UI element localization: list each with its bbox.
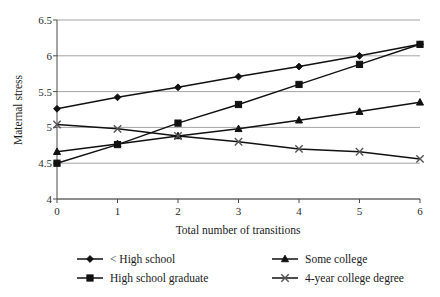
line-chart: 44.555.566.5 0123456 Maternal stress Tot…: [0, 0, 440, 297]
legend-item[interactable]: < High school: [77, 253, 175, 266]
marker-square: [87, 275, 93, 281]
data-series-group: [53, 41, 423, 166]
marker-triangle: [417, 99, 424, 106]
marker-diamond: [114, 94, 121, 101]
y-tick-label: 6: [47, 50, 53, 62]
marker-square: [417, 41, 423, 47]
marker-diamond: [356, 52, 363, 59]
x-tick-label: 4: [296, 205, 302, 217]
marker-diamond: [54, 105, 61, 112]
legend-label: Some college: [305, 253, 367, 266]
legend-item[interactable]: 4-year college degree: [272, 272, 404, 285]
legend-label: High school graduate: [110, 272, 208, 285]
marker-square: [175, 120, 181, 126]
legend-item[interactable]: Some college: [272, 253, 367, 266]
x-axis-tick-labels: 0123456: [54, 205, 423, 217]
plot-axes: [57, 20, 420, 199]
legend-label: < High school: [110, 253, 175, 266]
marker-diamond: [235, 73, 242, 80]
marker-square: [54, 160, 60, 166]
y-axis-title: Maternal stress: [12, 75, 24, 145]
marker-square: [356, 61, 362, 67]
x-tick-label: 1: [115, 205, 121, 217]
marker-diamond: [175, 84, 182, 91]
y-tick-label: 6.5: [38, 14, 52, 26]
chart-legend: < High schoolSome collegeHigh school gra…: [77, 253, 404, 285]
legend-label: 4-year college degree: [305, 272, 404, 285]
data-series: [54, 41, 423, 166]
y-tick-label: 5.5: [38, 86, 52, 98]
gridlines: [57, 20, 420, 199]
marker-square: [235, 101, 241, 107]
marker-diamond: [87, 256, 94, 263]
x-tick-label: 3: [236, 205, 242, 217]
x-tick-label: 6: [417, 205, 423, 217]
x-tick-label: 0: [54, 205, 60, 217]
marker-square: [296, 81, 302, 87]
x-tick-label: 2: [175, 205, 181, 217]
x-tick-label: 5: [357, 205, 363, 217]
x-axis-tickmarks: [57, 199, 420, 203]
y-tick-label: 5: [47, 121, 53, 133]
x-axis-title: Total number of transitions: [176, 224, 301, 236]
chart-figure: 44.555.566.5 0123456 Maternal stress Tot…: [0, 0, 440, 297]
y-tick-label: 4: [47, 193, 53, 205]
y-tick-label: 4.5: [38, 157, 52, 169]
legend-item[interactable]: High school graduate: [77, 272, 208, 285]
marker-diamond: [296, 63, 303, 70]
